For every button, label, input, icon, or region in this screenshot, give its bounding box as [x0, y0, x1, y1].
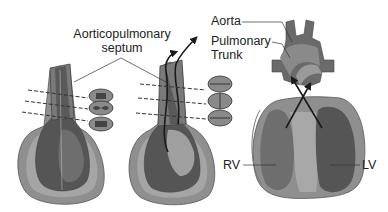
- label-pulmonary-line2: Trunk: [211, 48, 271, 62]
- stage-2-heart: [129, 38, 215, 205]
- label-aorta: Aorta: [211, 14, 241, 28]
- heart-septation-diagram: [0, 0, 388, 212]
- label-aorticopulmonary-septum: Aorticopulmonary septum: [72, 27, 172, 55]
- label-rv: RV: [223, 158, 240, 172]
- label-pulmonary-trunk: Pulmonary Trunk: [211, 34, 271, 62]
- label-pulmonary-line1: Pulmonary: [211, 34, 271, 48]
- label-septum-line2: septum: [72, 41, 172, 55]
- label-septum-line1: Aorticopulmonary: [72, 27, 172, 41]
- stage-1-heart: [18, 64, 104, 204]
- label-lv: LV: [362, 158, 376, 172]
